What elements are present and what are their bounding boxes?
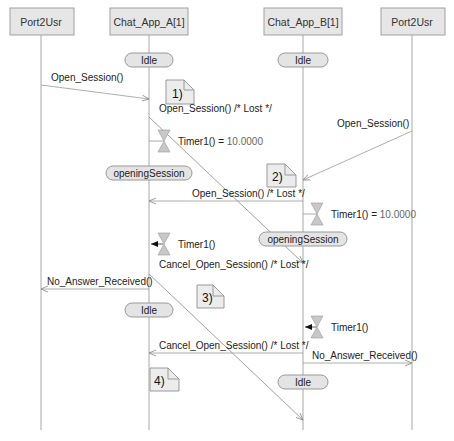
message-open-session-2[interactable]: Open_Session() [303, 118, 412, 180]
svg-text:Idle: Idle [141, 305, 158, 316]
lifeline-label: Chat_App_B[1] [267, 16, 338, 28]
message-no-answer-received-a[interactable]: No_Answer_Received() [41, 276, 153, 289]
svg-text:No_Answer_Received(): No_Answer_Received() [47, 276, 153, 287]
timer-1-set-b[interactable]: Timer1() = 10.0000 [303, 203, 416, 225]
message-open-session-lost-b-to-a[interactable]: Open_Session() /* Lost */ [149, 188, 305, 201]
message-cancel-open-session-lost-b-to-a[interactable]: Cancel_Open_Session() /* Lost */ [149, 340, 309, 353]
svg-text:Idle: Idle [141, 55, 158, 66]
state-opening-session-a[interactable]: openingSession [106, 166, 192, 180]
state-opening-session-b[interactable]: openingSession [259, 232, 347, 246]
message-no-answer-received-b[interactable]: No_Answer_Received() [303, 350, 418, 363]
note-4: 4) [150, 368, 179, 391]
timer-1-expire-a[interactable]: Timer1() [151, 233, 215, 255]
message-open-session-1[interactable]: Open_Session() [41, 72, 149, 99]
svg-text:Open_Session(): Open_Session() [337, 118, 409, 129]
note-2: 2) [267, 164, 296, 187]
svg-text:openingSession: openingSession [113, 168, 184, 179]
svg-text:2): 2) [272, 170, 283, 184]
timer-1-expire-b[interactable]: Timer1() [305, 316, 368, 338]
timer-1-set-a[interactable]: Timer1() = 10.0000 [149, 130, 263, 152]
svg-text:Idle: Idle [295, 377, 312, 388]
lifeline-label: Port2Usr [391, 16, 433, 28]
svg-text:Open_Session(): Open_Session() [51, 72, 123, 83]
svg-text:Timer1() = 10.0000: Timer1() = 10.0000 [331, 209, 416, 220]
note-1: 1) [166, 80, 194, 104]
svg-text:openingSession: openingSession [267, 234, 338, 245]
svg-text:Open_Session() /* Lost */: Open_Session() /* Lost */ [192, 188, 305, 199]
lifeline-label: Port2Usr [20, 16, 62, 28]
svg-text:Cancel_Open_Session() /* Lost: Cancel_Open_Session() /* Lost */ [159, 340, 309, 351]
sequence-diagram-canvas: Port2Usr Chat_App_A[1] Chat_App_B[1] Por… [0, 0, 454, 441]
svg-text:Cancel_Open_Session() /* Lost: Cancel_Open_Session() /* Lost */ [159, 259, 309, 270]
state-idle-b-top[interactable]: Idle [278, 53, 328, 67]
svg-text:4): 4) [154, 374, 165, 388]
svg-text:Timer1() = 10.0000: Timer1() = 10.0000 [178, 136, 263, 147]
state-idle-b-bottom[interactable]: Idle [278, 375, 328, 389]
svg-text:No_Answer_Received(): No_Answer_Received() [312, 350, 418, 361]
lifeline-label: Chat_App_A[1] [113, 16, 184, 28]
svg-text:1): 1) [172, 87, 183, 101]
state-idle-a-bottom[interactable]: Idle [125, 303, 173, 317]
svg-text:3): 3) [202, 291, 213, 305]
svg-text:Timer1(): Timer1() [331, 322, 368, 333]
svg-text:Open_Session() /* Lost */: Open_Session() /* Lost */ [159, 103, 272, 114]
svg-text:Idle: Idle [295, 55, 312, 66]
svg-text:Timer1(): Timer1() [178, 239, 215, 250]
state-idle-a-top[interactable]: Idle [125, 53, 173, 67]
note-3: 3) [197, 285, 224, 308]
